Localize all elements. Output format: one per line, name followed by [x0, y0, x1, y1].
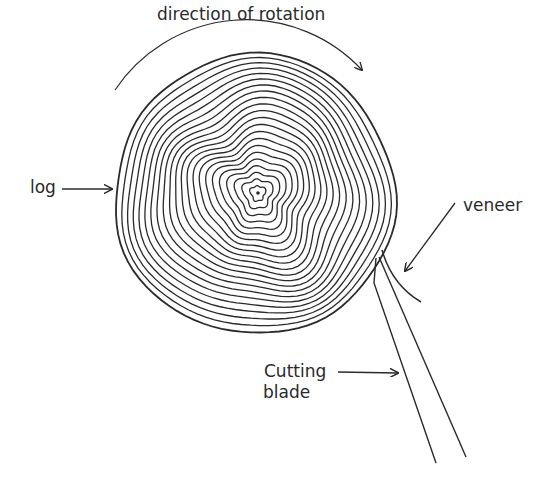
- veneer-arrow-icon: [405, 203, 455, 271]
- log-label: log: [30, 177, 56, 197]
- growth-ring: [206, 145, 304, 243]
- blade-label-line1: Cutting: [264, 361, 326, 381]
- rotary-veneer-cutting-diagram: direction of rotation log veneer Cutting…: [0, 0, 549, 493]
- blade-label-line2: blade: [263, 382, 310, 402]
- rotation-label: direction of rotation: [157, 4, 325, 24]
- log-pith: [256, 191, 260, 195]
- blade-arrow-icon: [338, 372, 398, 373]
- cutting-blade: [374, 257, 466, 463]
- veneer-label: veneer: [463, 195, 522, 215]
- growth-ring: [212, 152, 298, 236]
- growth-ring: [227, 166, 286, 222]
